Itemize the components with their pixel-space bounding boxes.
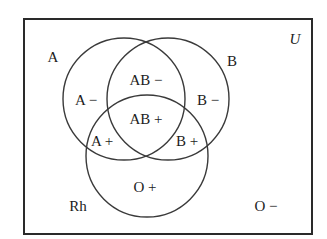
region-a-positive: A +	[91, 133, 113, 149]
blood-type-venn-diagram: U A B Rh A − AB − B − A + AB + B + O + O…	[0, 0, 327, 239]
region-b-negative: B −	[197, 92, 219, 108]
set-a-label: A	[48, 49, 59, 65]
region-a-negative: A −	[75, 92, 97, 108]
region-b-positive: B +	[176, 133, 198, 149]
set-b-label: B	[227, 53, 237, 69]
universe-label: U	[290, 31, 302, 47]
set-rh-label: Rh	[69, 198, 87, 214]
region-ab-positive: AB +	[129, 111, 162, 127]
region-o-negative: O −	[254, 198, 277, 214]
region-ab-negative: AB −	[129, 72, 162, 88]
region-o-positive: O +	[133, 179, 156, 195]
